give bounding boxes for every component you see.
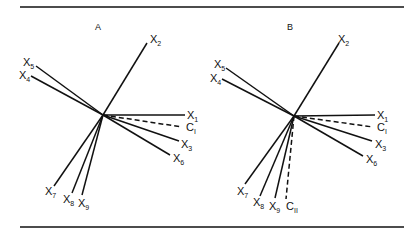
vector-cii [286,116,294,199]
panel-b-title: B [287,22,293,32]
vector-label: X7 [45,185,56,199]
vector-label: X4 [19,69,30,83]
vector-label: X4 [210,72,221,86]
vector-x6 [294,116,363,156]
vector-diagram: A X1X2X3X4X5X6X7X8X9CI B X1X2X3X4X5X6X7X… [0,0,420,234]
vector-ci [103,115,182,127]
vector-label: X6 [173,152,184,166]
vector-x9 [82,115,103,195]
vector-x5 [36,66,103,115]
panel-b: B X1X2X3X4X5X6X7X8X9CICII [210,22,388,214]
vector-x4 [222,79,294,116]
vector-label: X6 [366,153,377,167]
vector-label: X3 [181,138,192,152]
vector-label: X8 [63,193,74,207]
vector-label: X7 [237,185,248,199]
vector-x4 [31,76,103,115]
vector-label: X8 [253,196,264,210]
vector-ci [294,116,373,127]
vector-label: X5 [214,58,225,72]
vector-x2 [103,43,147,115]
vector-x5 [226,68,294,116]
vector-label: CII [286,200,298,214]
vector-label: X2 [338,33,349,47]
vector-label: CI [186,121,196,135]
vector-label: X2 [150,33,161,47]
vector-label: CI [377,121,387,135]
vector-label: X9 [78,197,89,211]
vector-x2 [294,43,339,116]
vector-label: X3 [375,138,386,152]
panel-a-title: A [95,22,101,32]
vector-x3 [294,116,372,141]
panel-a: A X1X2X3X4X5X6X7X8X9CI [19,22,198,211]
vector-x1 [294,115,375,116]
vector-label: X9 [269,200,280,214]
vector-label: X5 [23,56,34,70]
